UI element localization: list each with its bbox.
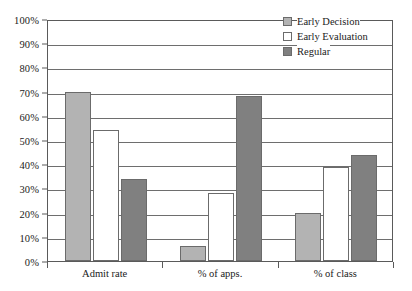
y-tick-label-90: 90% <box>19 39 39 50</box>
gridline-50 <box>48 142 392 143</box>
y-tick-label-0: 0% <box>25 257 39 268</box>
y-tick-label-40: 40% <box>19 160 39 171</box>
chart-legend: Early DecisionEarly EvaluationRegular <box>283 15 368 58</box>
y-tick-label-30: 30% <box>19 184 39 195</box>
legend-item: Regular <box>283 45 368 58</box>
legend-label: Early Decision <box>297 15 360 28</box>
legend-swatch-icon <box>283 32 292 41</box>
legend-swatch-icon <box>283 17 292 26</box>
gridline-30 <box>48 190 392 191</box>
y-tick-label-50: 50% <box>19 136 39 147</box>
y-tick-label-60: 60% <box>19 111 39 122</box>
x-category-label: % of class <box>314 268 357 279</box>
x-tick-mark-0 <box>47 262 48 268</box>
gridline-20 <box>48 215 392 216</box>
bar <box>93 130 119 261</box>
x-tick-mark-3 <box>393 262 394 268</box>
legend-label: Early Evaluation <box>297 30 368 43</box>
bar <box>351 155 377 261</box>
legend-swatch-icon <box>283 47 292 56</box>
y-tick-label-100: 100% <box>14 15 39 26</box>
x-tick-mark-2 <box>278 262 279 268</box>
x-category-label: % of apps. <box>198 268 243 279</box>
gridline-40 <box>48 166 392 167</box>
bar <box>208 193 234 261</box>
y-tick-label-20: 20% <box>19 208 39 219</box>
y-axis: 0%10%20%30%40%50%60%70%80%90%100% <box>0 0 47 291</box>
gridline-10 <box>48 239 392 240</box>
y-tick-label-10: 10% <box>19 232 39 243</box>
y-tick-label-80: 80% <box>19 63 39 74</box>
legend-label: Regular <box>297 45 330 58</box>
gridline-70 <box>48 94 392 95</box>
x-tick-mark-1 <box>162 262 163 268</box>
bar <box>295 213 321 261</box>
bar <box>180 246 206 261</box>
x-category-label: Admit rate <box>82 268 127 279</box>
y-tick-label-70: 70% <box>19 87 39 98</box>
gridline-60 <box>48 118 392 119</box>
bar <box>236 96 262 261</box>
legend-item: Early Evaluation <box>283 30 368 43</box>
gridline-80 <box>48 69 392 70</box>
legend-item: Early Decision <box>283 15 368 28</box>
bar-chart: 0%10%20%30%40%50%60%70%80%90%100% Admit … <box>0 0 412 291</box>
